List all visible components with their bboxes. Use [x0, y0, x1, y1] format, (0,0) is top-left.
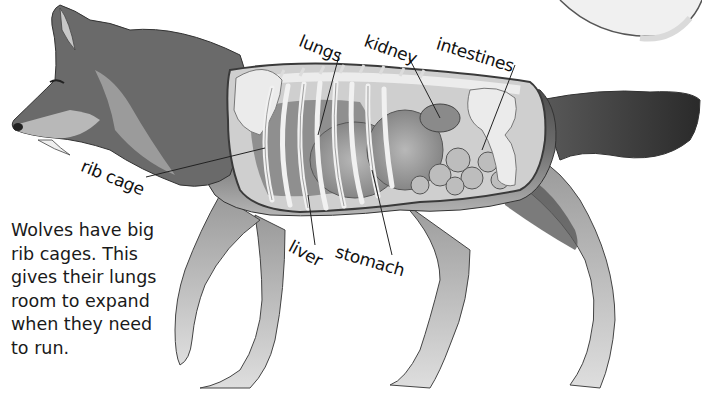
caption-line: to run. [11, 337, 181, 361]
caption-line: rib cages. This [11, 243, 181, 267]
caption-line: room to expand [11, 290, 181, 314]
wolf-anatomy-diagram: lungs kidney intestines rib cage liver s… [0, 0, 702, 396]
caption-text: Wolves have big rib cages. This gives th… [11, 219, 181, 360]
caption-line: when they need [11, 313, 181, 337]
caption-line: gives their lungs [11, 266, 181, 290]
decorative-circle [560, 0, 702, 39]
mouth [38, 140, 70, 155]
head [12, 5, 246, 186]
front-leg-near [175, 195, 260, 365]
caption-line: Wolves have big [11, 219, 181, 243]
tail [540, 91, 700, 160]
nose [13, 123, 23, 131]
hind-leg-far [390, 200, 470, 388]
anatomy-cutaway [227, 63, 545, 212]
